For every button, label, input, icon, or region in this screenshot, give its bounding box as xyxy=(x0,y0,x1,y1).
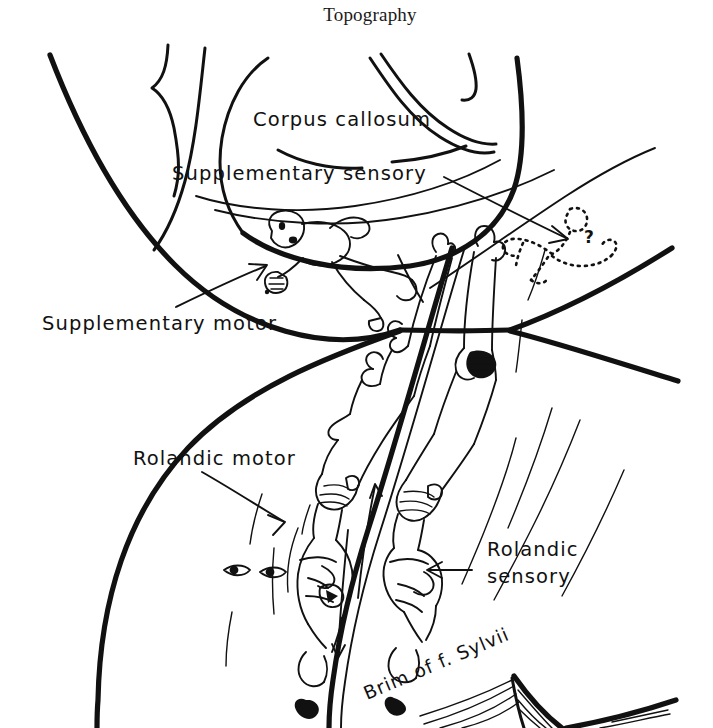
sensory-hand xyxy=(396,480,424,521)
motor-jaw xyxy=(308,624,326,648)
motor-tongue-lobe-inner xyxy=(324,656,327,682)
brain-topography-drawing: Topography xyxy=(0,0,713,728)
rolandic-motor-arrow xyxy=(202,472,285,535)
sensory-wrist xyxy=(393,514,398,548)
sensory-wrist-inner xyxy=(418,520,424,550)
corpus-callosum-splenium-hook xyxy=(462,54,476,100)
supplementary-motor-homunculus xyxy=(265,211,423,332)
flanking-sulcus-right xyxy=(462,438,516,584)
sensory-leg-outer xyxy=(464,252,474,348)
corpus-callosum-label-underline-right xyxy=(392,146,466,162)
motor-finger-crease-2 xyxy=(320,494,349,499)
sensory-swallow-blob xyxy=(385,697,406,716)
sensory-arm-inner xyxy=(442,444,474,490)
motor-arm-outer xyxy=(322,440,338,474)
motor-trunk-zig-1 xyxy=(362,369,380,386)
motor-vocalization-blob xyxy=(295,699,319,719)
label-rolandic-motor: Rolandic motor xyxy=(133,447,296,470)
motor-thumb xyxy=(346,476,359,490)
sensory-head-inner xyxy=(418,550,442,606)
anterior-hairline xyxy=(226,612,232,666)
motor-toes xyxy=(432,234,448,252)
sensory-jaw xyxy=(404,612,422,642)
motor-tongue-lobe xyxy=(299,652,324,686)
homunculus-fist xyxy=(265,272,287,293)
rolandic-motor-arrow-shaft xyxy=(202,472,283,521)
flanking-sulcus-left-2 xyxy=(287,528,298,592)
outer-hemisphere-contour-ridge xyxy=(400,330,510,331)
sylvian-hatch-4 xyxy=(462,702,519,728)
sensory-trunk-outer xyxy=(434,372,456,434)
motor-brow xyxy=(300,557,336,562)
motor-shoulder xyxy=(350,380,362,414)
topography-figure: Topography xyxy=(0,0,713,728)
motor-trunk-zig-2 xyxy=(366,352,383,369)
homunculus-foot-upper xyxy=(397,280,416,300)
homunculus-foot-lower xyxy=(369,318,384,331)
dotted-homunculus-foot-left xyxy=(531,278,548,283)
motor-hand xyxy=(316,474,342,510)
motor-wrist xyxy=(313,504,318,538)
sensory-leg-inner xyxy=(492,258,496,350)
rolandic-motor-arrow-head xyxy=(268,515,285,535)
dotted-homunculus-leg-right xyxy=(552,256,611,266)
homunculus-torso xyxy=(302,222,350,265)
sylvian-fissure-brim-wedge xyxy=(420,676,676,728)
posterior-hairline-4 xyxy=(562,470,624,596)
sensory-chin xyxy=(426,606,436,640)
motor-finger-crease-1 xyxy=(324,485,350,490)
label-rolandic-sensory-line2: sensory xyxy=(487,565,571,588)
label-brim-of-fissure-sylvii: Brim of f. Sylvii xyxy=(360,623,512,703)
rolandic-motor-homunculus xyxy=(295,234,455,719)
eye-glyphs xyxy=(224,566,286,578)
eye-glyph-left-pupil xyxy=(230,566,239,575)
dotted-homunculus-hand xyxy=(516,243,523,266)
motor-wrist-inner xyxy=(336,510,342,540)
flanking-sulcus-left xyxy=(273,548,275,614)
rolandic-motor-arrow-target-tick xyxy=(302,505,310,534)
motor-shoulder-zig xyxy=(328,414,350,440)
sensory-brow xyxy=(390,559,428,564)
homunculus-arm-upper xyxy=(330,217,369,238)
homunculus-mouth xyxy=(289,237,297,244)
posterior-sulcus-line xyxy=(430,148,655,288)
sylvian-hatch-1 xyxy=(420,680,512,716)
label-corpus-callosum: Corpus callosum xyxy=(253,108,431,131)
supplementary-sensory-homunculus: ? xyxy=(503,208,617,283)
outer-hemisphere-contour-right-upper xyxy=(510,248,672,330)
sensory-finger-crease-1 xyxy=(404,491,434,497)
flanking-sulcus-right-2 xyxy=(508,408,552,528)
label-supplementary-motor: Supplementary motor xyxy=(42,312,277,335)
supplementary-sensory-question-mark: ? xyxy=(584,227,594,247)
outer-hemisphere-contour-lower-left xyxy=(97,331,400,728)
homunculus-fingers xyxy=(269,278,284,289)
label-supplementary-sensory: Supplementary sensory xyxy=(172,162,427,185)
sensory-trunk-inner xyxy=(474,380,496,444)
sensory-head-outer xyxy=(383,548,404,612)
sensory-arm-outer xyxy=(406,434,434,480)
ink-dot xyxy=(265,290,269,294)
label-rolandic-sensory-line1: Rolandic xyxy=(487,538,579,561)
sensory-thumb xyxy=(428,484,442,499)
motor-neck-outer xyxy=(297,538,314,624)
dotted-homunculus-foot xyxy=(601,240,616,256)
homunculus-shin-lower xyxy=(364,300,381,318)
outer-hemisphere-contour-right-lower xyxy=(510,331,678,381)
sensory-finger-crease-3 xyxy=(400,510,430,514)
sensory-finger-crease-2 xyxy=(400,501,432,507)
homunculus-head xyxy=(269,211,304,248)
figure-title: Topography xyxy=(323,4,417,25)
homunculus-eye xyxy=(279,222,285,230)
